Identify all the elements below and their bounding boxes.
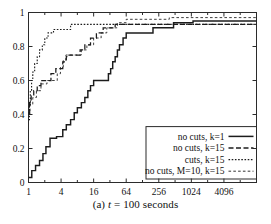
y-tick-label: 1 [20,8,25,18]
x-tick-label: 4 [59,187,64,197]
y-tick-label: 0.8 [13,42,25,52]
y-tick-label: 0.6 [13,76,25,86]
x-tick-label: 1024 [182,187,201,197]
y-tick-label: 0.4 [13,110,25,120]
y-tick-label: 0 [20,178,25,188]
series-line [29,24,257,119]
legend-label: cuts, k=15 [185,155,225,165]
figure-container: 1416642561024409600.20.40.60.81no cuts, … [0,0,271,224]
series-line [29,18,257,115]
legend-label: no cuts, k=1 [178,132,225,142]
x-tick-label: 1 [26,187,31,197]
caption-rest: = 100 seconds [114,198,178,210]
caption-variable: t [108,198,111,210]
x-tick-label: 4096 [214,187,233,197]
cdf-chart: 1416642561024409600.20.40.60.81no cuts, … [0,0,271,224]
y-tick-label: 0.2 [13,144,25,154]
legend-label: no cuts, M=10, k=15 [145,166,225,176]
x-tick-label: 256 [152,187,167,197]
x-tick-label: 64 [121,187,131,197]
x-tick-label: 16 [89,187,99,197]
figure-caption: (a) t = 100 seconds [0,198,271,210]
caption-prefix: (a) [93,198,106,210]
legend-label: no cuts, k=15 [173,143,225,153]
series-line [29,24,257,112]
